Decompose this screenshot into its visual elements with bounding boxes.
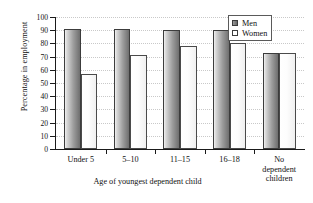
x-axis-tick: [155, 150, 156, 154]
y-axis-tick: [50, 136, 55, 137]
x-axis-title: Age of youngest dependent child: [40, 177, 255, 186]
x-axis-category-label-line: children: [254, 174, 304, 184]
x-axis-category-label: 5–10: [106, 155, 156, 165]
y-axis-tick-label: 0: [26, 145, 48, 154]
x-axis-tick: [106, 150, 107, 154]
x-axis-category-label: 11–15: [155, 155, 205, 165]
bar-men: [263, 53, 280, 149]
chart-legend: Men Women: [228, 15, 272, 41]
gridline: [56, 43, 304, 44]
y-axis-tick-label: 70: [26, 52, 48, 61]
y-axis-tick-label: 100: [26, 13, 48, 22]
y-axis-tick: [50, 17, 55, 18]
x-axis-line: [55, 149, 305, 150]
y-axis-line: [55, 17, 56, 150]
y-axis-tick-label: 30: [26, 105, 48, 114]
x-axis-category-label-line: 5–10: [106, 155, 156, 165]
bar-women: [130, 55, 147, 149]
bar-women: [81, 74, 98, 149]
y-axis-tick: [50, 57, 55, 58]
x-axis-category-label: Nodependentchildren: [254, 155, 304, 184]
bar-women: [279, 53, 296, 149]
x-axis-category-label-line: 16–18: [205, 155, 255, 165]
bar-chart-figure: Percentage in employment 010203040506070…: [0, 0, 313, 203]
y-axis-tick: [50, 70, 55, 71]
legend-item-women: Women: [232, 28, 267, 38]
bar-men: [163, 30, 180, 149]
bar-men: [213, 30, 230, 149]
y-axis-tick-label: 40: [26, 92, 48, 101]
bar-women: [180, 46, 197, 149]
y-axis-tick-label: 20: [26, 118, 48, 127]
legend-label-men: Men: [242, 19, 257, 28]
y-axis-tick-label: 50: [26, 79, 48, 88]
legend-swatch-women-icon: [232, 30, 238, 36]
x-axis-category-label: 16–18: [205, 155, 255, 165]
y-axis-tick-label: 80: [26, 39, 48, 48]
x-axis-category-label-line: No: [254, 155, 304, 165]
x-axis-category-label-line: Under 5: [56, 155, 106, 165]
legend-swatch-men-icon: [232, 20, 238, 26]
x-axis-tick: [205, 150, 206, 154]
x-axis-category-label: Under 5: [56, 155, 106, 165]
y-axis-tick: [50, 43, 55, 44]
legend-label-women: Women: [242, 29, 267, 38]
legend-item-men: Men: [232, 18, 267, 28]
bar-men: [64, 29, 81, 149]
x-axis-category-label-line: 11–15: [155, 155, 205, 165]
bar-men: [114, 29, 131, 149]
x-axis-tick: [254, 150, 255, 154]
y-axis-tick: [50, 83, 55, 84]
y-axis-tick: [50, 30, 55, 31]
x-axis-category-label-line: dependent: [254, 165, 304, 175]
y-axis-tick-label: 90: [26, 26, 48, 35]
y-axis-tick-label: 10: [26, 131, 48, 140]
y-axis-tick: [50, 109, 55, 110]
bar-women: [230, 43, 247, 149]
y-axis-tick: [50, 123, 55, 124]
y-axis-tick-label: 60: [26, 65, 48, 74]
y-axis-tick: [50, 149, 55, 150]
y-axis-tick: [50, 96, 55, 97]
